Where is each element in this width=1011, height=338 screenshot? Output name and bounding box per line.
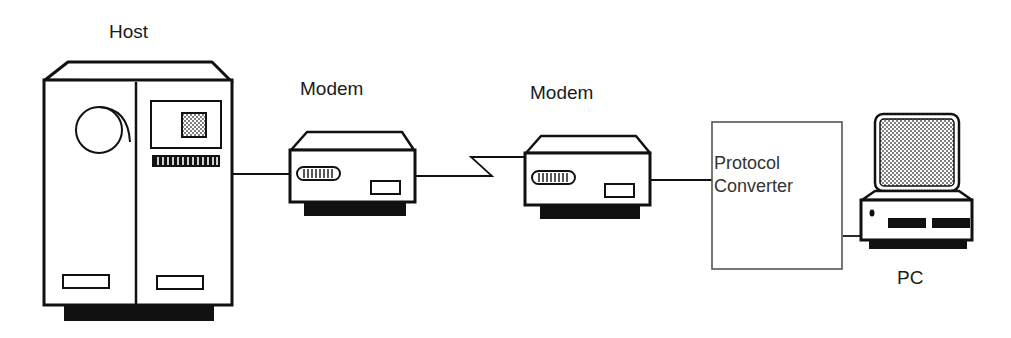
protocol-converter-label-line1: Protocol	[714, 152, 793, 175]
pc-computer-icon	[861, 114, 972, 249]
pc-label: PC	[897, 268, 923, 287]
modem-1-label: Modem	[300, 79, 363, 98]
modem-2-label: Modem	[530, 83, 593, 102]
host-label: Host	[109, 22, 148, 41]
modem-2-icon	[525, 136, 650, 219]
network-diagram	[0, 0, 1011, 338]
modem-1-icon	[290, 132, 415, 216]
link-modem1-modem2	[415, 157, 524, 176]
host-mainframe-icon	[44, 62, 232, 321]
protocol-converter-label-line2: Converter	[714, 175, 793, 198]
protocol-converter-label: Protocol Converter	[714, 152, 793, 198]
